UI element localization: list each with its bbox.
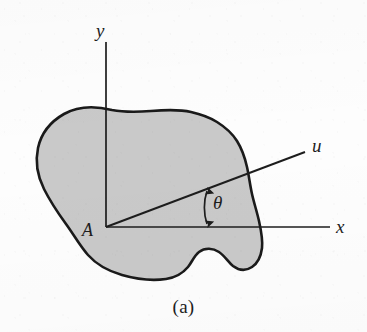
x-axis-label: x	[336, 217, 344, 236]
u-axis-label: u	[312, 136, 322, 155]
shaded-body-region	[37, 107, 262, 279]
figure-container: y x u A θ (a)	[0, 0, 367, 332]
mechanics-figure-svg	[0, 0, 367, 332]
origin-point-label: A	[82, 221, 93, 239]
figure-caption: (a)	[0, 296, 367, 318]
y-axis-label: y	[96, 21, 104, 40]
theta-angle-label: θ	[213, 193, 222, 212]
